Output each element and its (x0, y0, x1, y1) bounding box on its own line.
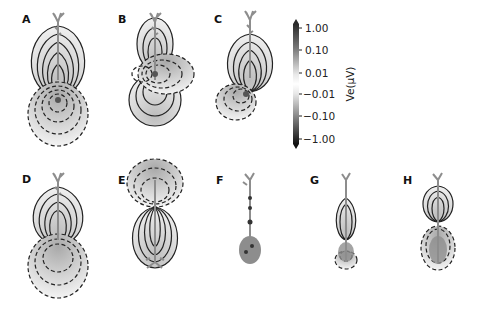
soma-icon (152, 71, 158, 77)
soma-icon (243, 91, 249, 97)
panel-a: A (22, 13, 88, 146)
panel-c: C (214, 11, 273, 120)
panel-e: E (118, 159, 183, 268)
negative-contours-d (28, 234, 88, 298)
basal-dendrites-icon (338, 242, 354, 262)
panel-label-g: G (310, 174, 319, 187)
panel-h: H (403, 173, 455, 270)
colorbar-tick: 0.10 (305, 44, 328, 56)
colorbar-label: Ve(μV) (344, 67, 356, 102)
colorbar-extend-bottom-icon (293, 144, 299, 149)
panel-label-d: D (22, 173, 31, 186)
panel-d: D (22, 173, 88, 298)
colorbar-tick: 0.01 (305, 67, 328, 79)
panel-f: F (216, 173, 261, 264)
panel-label-e: E (118, 174, 126, 187)
soma-icon (55, 97, 61, 103)
panel-label-b: B (118, 13, 126, 26)
colorbar-gradient (293, 24, 299, 144)
basal-dendrites-icon (429, 236, 447, 264)
panel-label-h: H (403, 174, 412, 187)
colorbar-tick: −1.00 (303, 133, 335, 145)
colorbar-extend-top-icon (293, 19, 299, 24)
negative-contours-c (216, 84, 256, 120)
colorbar-tick: −0.01 (303, 88, 335, 100)
colorbar: 1.00 0.10 0.01 −0.01 −0.10 −1.00 Ve(μV) (293, 19, 356, 149)
figure-canvas: A B (0, 0, 479, 313)
panel-label-f: F (216, 174, 224, 187)
negative-contours-a (28, 82, 88, 146)
panel-b: B (118, 13, 194, 126)
colorbar-tick: 1.00 (305, 22, 328, 34)
panel-label-c: C (214, 13, 222, 26)
panel-label-a: A (22, 13, 31, 26)
panel-g: G (310, 173, 357, 269)
basal-dendrites-icon (239, 236, 261, 264)
colorbar-tick: −0.10 (303, 110, 335, 122)
